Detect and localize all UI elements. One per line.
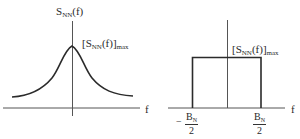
right-x-axis-label: f bbox=[291, 104, 295, 115]
right-panel bbox=[168, 20, 285, 108]
negative-sign: − bbox=[176, 116, 182, 127]
right-edge-numerator: BN bbox=[253, 112, 266, 125]
right-peak-label: [SNN(f)]max bbox=[232, 44, 279, 57]
left-edge-fraction: BN 2 bbox=[185, 112, 198, 136]
left-y-axis-label: SNN(f) bbox=[56, 6, 83, 19]
right-edge-fraction: BN 2 bbox=[253, 112, 266, 136]
right-edge-denominator: 2 bbox=[257, 125, 262, 136]
left-edge-numerator: BN bbox=[185, 112, 198, 125]
left-peak-label: [SNN(f)]max bbox=[82, 38, 129, 51]
rectangular-spectrum bbox=[193, 58, 262, 109]
left-edge-denominator: 2 bbox=[189, 125, 194, 136]
left-x-axis-label: f bbox=[145, 104, 149, 115]
left-panel bbox=[3, 21, 140, 116]
